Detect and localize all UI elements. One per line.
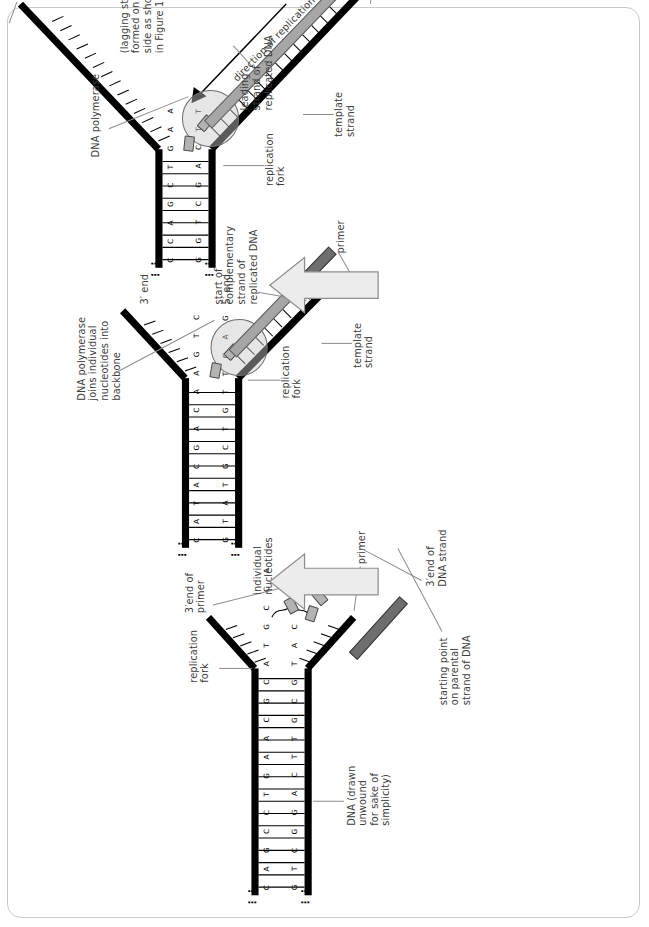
leader-dna-unwound <box>313 800 344 801</box>
fork-upper-template-1 <box>208 617 254 668</box>
polymerase-nucleotide-a-2 <box>209 362 222 379</box>
label-replication-fork-2: replication fork <box>280 345 303 398</box>
polymerase-nucleotide-a-3 <box>183 135 195 151</box>
label-template-strand-2: template strand <box>351 322 374 367</box>
duplex-bases-upper-2: C A T A C G A C A A G T C <box>193 309 200 542</box>
panel-stage-3-leading-strand: ⋮⋮ ⋮⋮ C C A G C T G A A G G T C G A C T … <box>8 4 642 311</box>
label-5prime-end-left-3: 5′ end <box>220 273 232 304</box>
panel-stage-1-priming: ⋮⋮ ⋮⋮ C A G C C T G A A C G C A T G C C … <box>8 617 642 924</box>
leader-replication-fork-3 <box>223 165 264 166</box>
leader-template-strand-2 <box>321 342 352 343</box>
leader-replication-fork-2 <box>247 379 280 380</box>
strand-continuation-dots-top-2: ⋮⋮ <box>179 537 184 559</box>
strand-continuation-dots-bottom-2: ⋮⋮ <box>233 537 238 559</box>
panel3-vector-layer <box>8 0 642 310</box>
strand-continuation-dots-top-1: ⋮⋮ <box>249 885 254 907</box>
label-3prime-end-left-3: 3′ end <box>138 273 150 304</box>
label-template-strand-3: template strand <box>333 91 356 136</box>
label-dna-polymerase-2: DNA polymerase joins individual nucleoti… <box>75 316 122 400</box>
fork-upper-template-2 <box>122 310 184 377</box>
leader-replication-fork-1 <box>219 667 252 668</box>
strand-continuation-dots-bottom-1: ⋮⋮ <box>302 885 307 907</box>
rotated-artwork-stage: ⋮⋮ ⋮⋮ C A G C C T G A A C G C A T G C C … <box>8 4 642 924</box>
label-dna-polymerase-3: DNA polymerase <box>89 73 101 157</box>
label-replication-fork-1: replication fork <box>188 629 211 682</box>
leader-template-strand-3 <box>303 113 334 114</box>
panel-stage-2-elongation: ⋮⋮ ⋮⋮ C A T A C G A C A A G T C G T A T … <box>8 310 642 617</box>
label-dna-unwound: DNA (drawn unwound for sake of simplicit… <box>345 765 392 825</box>
label-lagging-note-3: (lagging strand formed on this side as s… <box>118 0 165 53</box>
panel1-vector-layer <box>8 617 642 924</box>
strand-continuation-dots-top-3: ⋮⋮ <box>153 257 158 279</box>
figure-page: ⋮⋮ ⋮⋮ C A G C C T G A A C G C A T G C C … <box>0 0 649 927</box>
label-replication-fork-3: replication fork <box>263 133 286 186</box>
strand-continuation-dots-bottom-3: ⋮⋮ <box>206 257 211 279</box>
duplex-bases-upper-3: C C A G C T G A A <box>166 102 173 262</box>
label-starting-point: starting point on parental strand of DNA <box>437 635 472 705</box>
